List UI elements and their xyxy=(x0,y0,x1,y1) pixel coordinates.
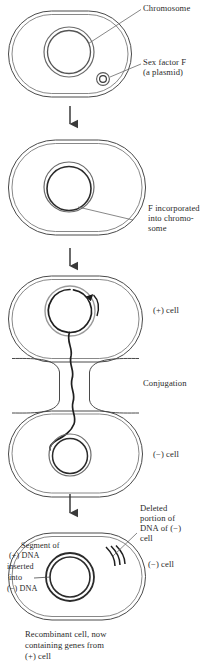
caption-line2: containing genes from xyxy=(25,641,104,651)
cell-wall-outer xyxy=(9,11,132,97)
minus-cell-wall xyxy=(9,411,143,497)
cell-wall-outer-2 xyxy=(9,140,146,235)
bridge-wall-right xyxy=(90,358,140,413)
conjugation-label: Conjugation xyxy=(143,379,187,389)
segment-line2: (+) DNA xyxy=(9,551,40,560)
f-incorporated-leader-line xyxy=(78,207,133,220)
plasmid-outer-ring xyxy=(97,73,110,86)
plasmid-inner-ring xyxy=(100,76,107,83)
chromosome-with-f-ring xyxy=(47,167,91,211)
chromosome-outer-ring xyxy=(44,27,94,77)
cell-membrane-inner xyxy=(12,15,128,94)
conjugation-diagram: Chromosome Sex factor F (a plasmid) F in… xyxy=(0,0,218,669)
minus-cell-membrane xyxy=(12,414,139,493)
f-incorporated-line3: some xyxy=(148,224,167,234)
segment-line5: (−) DNA xyxy=(7,584,38,593)
recipient-chromosome-outer xyxy=(49,434,91,476)
donor-dna-strand xyxy=(48,289,91,332)
minus-cell-label: (−) cell xyxy=(153,450,179,460)
segment-line1: Segment of xyxy=(21,541,60,550)
cell-membrane-inner-2 xyxy=(12,144,142,232)
panel-3-conjugating-cells xyxy=(9,276,143,497)
chromosome-outer-ring-2 xyxy=(44,162,94,212)
chromosome-leader-line xyxy=(89,10,142,44)
panel-1-donor-cell xyxy=(9,10,142,98)
donor-chromosome-outer xyxy=(45,286,95,336)
plus-cell-membrane xyxy=(12,280,139,359)
plus-cell-label: (+) cell xyxy=(153,306,179,316)
sex-factor-label-line2: (a plasmid) xyxy=(143,68,183,78)
deleted-portion-line4: cell xyxy=(140,534,153,544)
recombinant-dna-outer xyxy=(46,553,94,601)
caption-line1: Recombinant cell, now xyxy=(25,630,107,640)
chromosome-inner-ring xyxy=(48,31,91,74)
chromosome-label: Chromosome xyxy=(143,4,190,14)
recipient-chromosome-inner xyxy=(53,439,88,474)
deleted-dna-fragments xyxy=(106,546,125,567)
segment-leader-line xyxy=(34,577,51,578)
panel-2-integrated-cell xyxy=(9,140,146,235)
bridge-wall-left xyxy=(12,358,60,413)
transferred-dna-strand xyxy=(50,333,75,451)
caption-line3: (+) cell xyxy=(25,652,51,662)
plasmid-leader-line xyxy=(110,64,141,77)
segment-line3: inserted xyxy=(7,562,34,571)
minus-cell-label-2: (−) cell xyxy=(148,560,174,570)
plus-cell-wall xyxy=(9,276,143,362)
deleted-portion-leader-line xyxy=(113,533,137,556)
segment-line4: into xyxy=(9,573,22,582)
recombinant-dna-inner xyxy=(50,557,90,597)
